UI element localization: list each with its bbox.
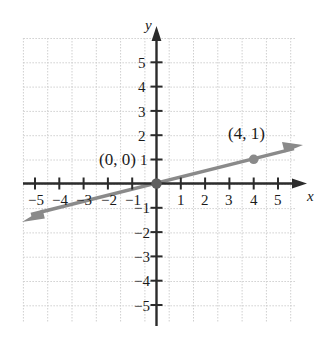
graph-canvas [0, 0, 325, 349]
y-tick-label-4: 4 [138, 80, 146, 95]
y-tick-label--1: −1 [134, 201, 150, 216]
x-tick-label-2: 2 [201, 193, 209, 208]
x-tick-label-3: 3 [225, 193, 233, 208]
x-axis-arrow [292, 179, 307, 189]
data-point-origin[interactable] [151, 178, 161, 188]
coordinate-plane-figure: −5 −4 −3 −2 −1 1 2 3 4 5 5 4 3 2 1 −1 −2… [0, 0, 325, 349]
y-axis-arrow [152, 26, 162, 41]
y-tick-label--4: −4 [134, 274, 150, 289]
y-axis-label: y [145, 18, 152, 33]
point-label-origin: (0, 0) [99, 151, 136, 168]
line-arrow-right [282, 142, 303, 153]
y-tick-label--3: −3 [134, 250, 150, 265]
x-axis-label: x [307, 189, 314, 204]
x-tick-label-5: 5 [274, 193, 282, 208]
y-tick-label-2: 2 [138, 129, 146, 144]
y-tick-label--2: −2 [134, 226, 150, 241]
y-tick-label-5: 5 [138, 56, 146, 71]
x-tick-label--2: −2 [101, 193, 117, 208]
point-label-4-1: (4, 1) [228, 125, 265, 142]
x-tick-label--3: −3 [76, 193, 92, 208]
y-tick-label--5: −5 [134, 299, 150, 314]
x-tick-label-1: 1 [177, 193, 185, 208]
x-tick-label--4: −4 [52, 193, 68, 208]
data-point-4-1[interactable] [249, 155, 259, 165]
y-tick-label-1: 1 [140, 153, 148, 168]
x-tick-label--5: −5 [28, 193, 44, 208]
y-tick-label-3: 3 [138, 105, 146, 120]
line-arrow-left [22, 209, 45, 222]
plotted-line [22, 142, 303, 222]
x-tick-label-4: 4 [250, 193, 258, 208]
